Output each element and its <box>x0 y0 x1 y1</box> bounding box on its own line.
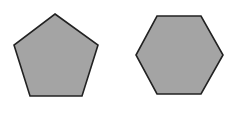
pentagon-shape <box>14 14 98 96</box>
diagram-canvas <box>0 0 236 113</box>
shapes-svg <box>0 0 236 113</box>
hexagon-shape <box>136 16 223 94</box>
